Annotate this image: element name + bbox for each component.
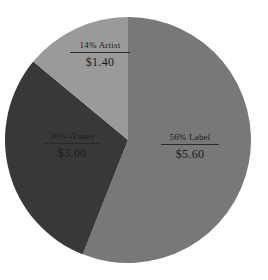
pie-label-artist-rule: [70, 52, 130, 53]
pie-label-itunes: 30% iTunes $3.00: [34, 131, 110, 161]
pie-label-itunes-amount: $3.00: [34, 147, 110, 161]
pie-label-label-rule: [161, 144, 219, 145]
pie-label-artist-heading: 14% Artist: [60, 40, 140, 52]
pie-label-itunes-rule: [44, 143, 100, 144]
pie-label-artist-amount: $1.40: [60, 56, 140, 70]
pie-label-itunes-heading: 30% iTunes: [34, 131, 110, 143]
pie-label-label-heading: 56% Label: [152, 132, 228, 144]
pie-chart-figure: 56% Label $5.60 30% iTunes $3.00 14% Art…: [0, 0, 268, 280]
pie-label-artist: 14% Artist $1.40: [60, 40, 140, 70]
pie-label-label: 56% Label $5.60: [152, 132, 228, 162]
pie-label-label-amount: $5.60: [152, 148, 228, 162]
